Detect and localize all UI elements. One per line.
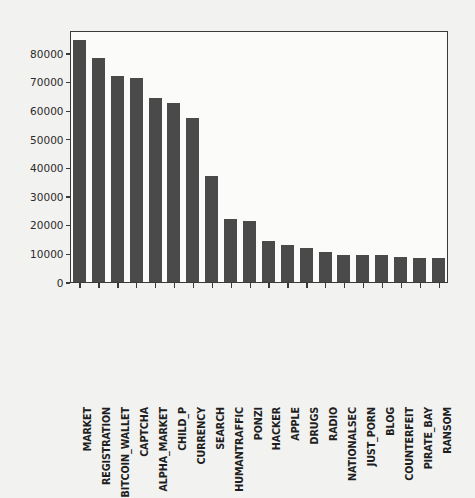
bar	[186, 118, 199, 282]
y-axis-tick-label: 30000	[30, 191, 63, 202]
bar	[375, 255, 388, 282]
x-axis-tick-label: SEARCH	[216, 407, 226, 450]
bar	[319, 252, 332, 282]
x-axis-tick-mark	[325, 283, 326, 288]
x-axis-tick-label: PONZI	[254, 407, 264, 440]
bar	[149, 98, 162, 282]
x-axis-tick-label: HACKER	[272, 407, 282, 450]
x-axis-tick-mark	[344, 283, 345, 288]
bar	[356, 255, 369, 282]
bar	[167, 103, 180, 282]
plot-area	[70, 31, 448, 283]
x-axis-tick-label: RADIO	[329, 407, 339, 441]
bar	[130, 78, 143, 282]
y-axis: 0100002000030000400005000060000700008000…	[0, 31, 70, 283]
x-axis-tick-mark	[212, 283, 213, 288]
y-axis-tick-label: 80000	[30, 48, 63, 59]
x-axis-tick-label: CHILD_P	[178, 407, 188, 451]
x-axis-tick-label: COUNTERFEIT	[405, 407, 415, 481]
x-axis-tick-label: APPLE	[291, 407, 301, 441]
y-axis-tick-label: 60000	[30, 105, 63, 116]
y-axis-tick-label: 0	[57, 277, 64, 288]
x-axis-tick-label: CAPTCHA	[140, 407, 150, 457]
y-axis-tick-label: 50000	[30, 134, 63, 145]
x-axis-tick-mark	[136, 283, 137, 288]
x-axis-tick-label: MARKET	[83, 407, 93, 451]
bar	[262, 241, 275, 282]
bar	[224, 219, 237, 282]
x-axis-labels: MARKETREGISTRATIONBITCOIN_WALLETCAPTCHAA…	[70, 289, 448, 409]
bar	[205, 176, 218, 282]
bar	[413, 258, 426, 282]
x-axis-tick-label: REGISTRATION	[102, 407, 112, 485]
bar	[432, 258, 445, 282]
x-axis-tick-label: ALPHA_MARKET	[159, 407, 169, 492]
y-axis-tick-label: 40000	[30, 163, 63, 174]
x-axis-tick-label: RANSOM	[443, 407, 453, 454]
y-axis-tick-label: 20000	[30, 220, 63, 231]
x-axis-tick-mark	[250, 283, 251, 288]
y-axis-tick-label: 10000	[30, 249, 63, 260]
x-axis-tick-label: PIRATE_BAY	[424, 407, 434, 469]
x-axis-tick-label: HUMANTRAFFIC	[235, 407, 245, 492]
bar	[281, 245, 294, 282]
bar	[111, 76, 124, 282]
x-axis-tick-mark	[420, 283, 421, 288]
bar	[73, 40, 86, 282]
x-axis-tick-label: CURRENCY	[197, 407, 207, 464]
x-axis-tick-mark	[79, 283, 80, 288]
bar	[243, 221, 256, 282]
x-axis-tick-mark	[363, 283, 364, 288]
bar	[394, 257, 407, 282]
x-axis-tick-mark	[193, 283, 194, 288]
x-axis-tick-mark	[98, 283, 99, 288]
x-axis-tick-mark	[174, 283, 175, 288]
x-axis-tick-mark	[117, 283, 118, 288]
x-axis-tick-mark	[268, 283, 269, 288]
bar-series	[71, 32, 447, 282]
y-axis-tick-label: 70000	[30, 77, 63, 88]
x-axis-tick-mark	[439, 283, 440, 288]
x-axis-tick-mark	[287, 283, 288, 288]
x-axis-tick-label: BITCOIN_WALLET	[121, 407, 131, 498]
x-axis-tick-mark	[231, 283, 232, 288]
bar	[92, 58, 105, 282]
x-axis-tick-label: JUST_PORN	[367, 407, 377, 466]
x-axis-tick-mark	[155, 283, 156, 288]
x-axis-tick-mark	[306, 283, 307, 288]
x-axis-tick-mark	[401, 283, 402, 288]
x-axis-tick-label: BLOG	[386, 407, 396, 436]
x-axis-tick-label: NATIONALSEC	[348, 407, 358, 481]
x-axis-tick-label: DRUGS	[310, 407, 320, 444]
bar	[300, 248, 313, 282]
x-axis-tick-mark	[382, 283, 383, 288]
bar	[337, 255, 350, 282]
